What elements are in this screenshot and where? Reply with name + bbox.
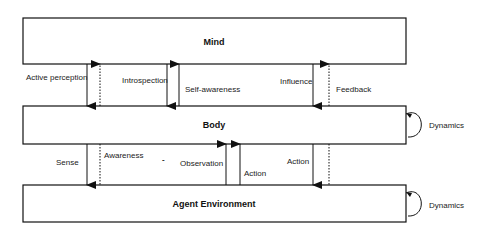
active-perception-label: Active perception (26, 73, 87, 82)
body-label: Body (203, 120, 226, 130)
body-dynamics-label: Dynamics (429, 121, 464, 130)
body-dynamics-arrowhead-icon (406, 113, 412, 118)
action-up-label: Action (244, 169, 266, 178)
mind-box: Mind (23, 18, 406, 64)
env-dynamics-arrowhead-icon (406, 192, 412, 197)
environment-box: Agent Environment (23, 185, 406, 222)
dash-mark: - (162, 155, 165, 164)
env-dynamics-label: Dynamics (429, 201, 464, 210)
diagram-canvas: Mind Body Agent Environment Active perce… (0, 0, 484, 235)
self-awareness-label: Self-awareness (185, 85, 240, 94)
action-down-label: Action (287, 157, 309, 166)
sense-label: Sense (56, 158, 79, 167)
introspection-label: Introspection (122, 76, 168, 85)
awareness-label: Awareness (104, 151, 143, 160)
body-dynamics-loop (406, 113, 421, 137)
feedback-label: Feedback (336, 85, 372, 94)
env-dynamics-loop (406, 192, 421, 216)
environment-label: Agent Environment (172, 199, 255, 209)
observation-label: Observation (180, 159, 223, 168)
influence-label: Influence (280, 77, 313, 86)
body-box: Body (23, 106, 406, 144)
mind-label: Mind (204, 37, 225, 47)
